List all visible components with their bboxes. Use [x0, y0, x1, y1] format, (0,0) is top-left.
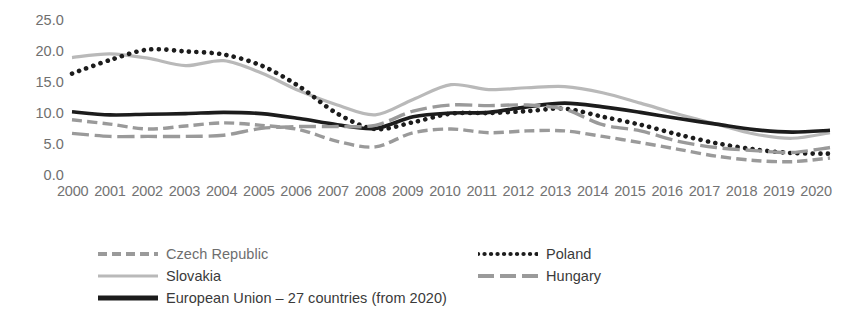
y-tick-label: 20.0: [18, 44, 64, 59]
x-tick-label: 2010: [429, 184, 460, 199]
series-group: [72, 49, 830, 162]
y-tick-label: 10.0: [18, 106, 64, 121]
legend-item-slovakia: Slovakia: [98, 265, 221, 287]
y-tick-label: 15.0: [18, 75, 64, 90]
legend-item-hungary: Hungary: [478, 265, 601, 287]
plot-area: [0, 0, 848, 200]
x-tick-label: 2001: [94, 184, 125, 199]
legend-line-longdash-icon: [478, 270, 538, 282]
legend-line-solid-icon: [98, 270, 158, 282]
plot-svg: [0, 0, 848, 200]
x-tick-label: 2003: [169, 184, 200, 199]
x-tick-label: 2009: [392, 184, 423, 199]
legend-line-dashed-icon: [98, 248, 158, 260]
x-tick-label: 2006: [280, 184, 311, 199]
x-tick-label: 2014: [577, 184, 608, 199]
legend-line-thick-solid-icon: [98, 292, 158, 304]
x-tick-label: 2019: [763, 184, 794, 199]
x-tick-label: 2007: [318, 184, 349, 199]
x-tick-label: 2008: [355, 184, 386, 199]
x-tick-label: 2017: [689, 184, 720, 199]
legend-item-czech-republic: Czech Republic: [98, 243, 268, 265]
unemployment-rate-line-chart: 25.0 20.0 15.0 10.0 5.0 0.0 200020012002…: [0, 0, 848, 317]
legend-label: Poland: [546, 247, 591, 262]
series-line-czech-republic: [72, 120, 830, 162]
legend-label: European Union – 27 countries (from 2020…: [166, 291, 447, 306]
y-tick-label: 0.0: [18, 168, 64, 183]
x-tick-label: 2011: [466, 184, 496, 199]
y-tick-label: 25.0: [18, 13, 64, 28]
x-tick-label: 2004: [206, 184, 237, 199]
x-tick-label: 2000: [57, 184, 88, 199]
x-tick-label: 2018: [726, 184, 757, 199]
x-tick-label: 2015: [614, 184, 645, 199]
legend-line-dotted-icon: [478, 248, 538, 260]
legend-item-poland: Poland: [478, 243, 591, 265]
legend-label: Czech Republic: [166, 247, 268, 262]
legend-label: Slovakia: [166, 269, 221, 284]
y-tick-label: 5.0: [18, 137, 64, 152]
x-tick-label: 2012: [503, 184, 534, 199]
x-tick-label: 2020: [800, 184, 831, 199]
x-tick-label: 2005: [243, 184, 274, 199]
y-axis: 25.0 20.0 15.0 10.0 5.0 0.0: [18, 0, 64, 200]
x-tick-label: 2016: [651, 184, 682, 199]
x-tick-label: 2002: [131, 184, 162, 199]
x-axis: 2000200120022003200420052006200720082009…: [57, 184, 832, 208]
legend-label: Hungary: [546, 269, 601, 284]
legend-item-european-union: European Union – 27 countries (from 2020…: [98, 287, 447, 309]
chart-legend: Czech Republic Slovakia European Union –…: [98, 243, 798, 309]
x-tick-label: 2013: [540, 184, 571, 199]
